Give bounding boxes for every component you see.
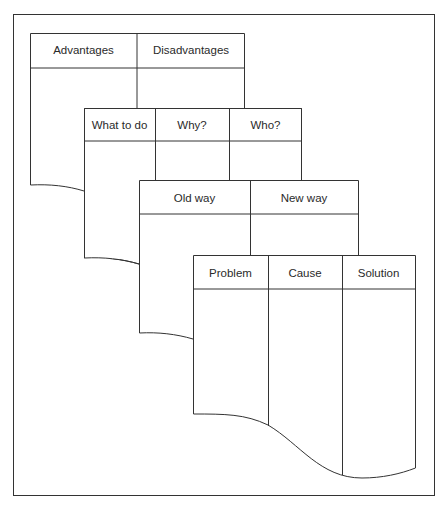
column-header-what-to-do: What to do <box>84 120 155 132</box>
column-header-new-way: New way <box>250 193 358 205</box>
column-header-advantages: Advantages <box>30 45 137 57</box>
column-header-disadvantages: Disadvantages <box>137 45 245 57</box>
column-header-cause: Cause <box>268 268 342 280</box>
column-header-why: Why? <box>155 120 229 132</box>
column-header-problem: Problem <box>193 268 268 280</box>
column-header-solution: Solution <box>342 268 415 280</box>
diagram-canvas <box>0 0 445 507</box>
column-header-old-way: Old way <box>139 193 250 205</box>
column-header-who: Who? <box>229 120 302 132</box>
